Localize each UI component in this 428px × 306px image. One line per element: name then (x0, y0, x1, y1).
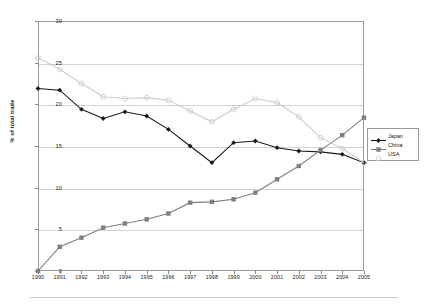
x-axis-tick-mark (212, 271, 213, 274)
series-usa (36, 55, 367, 165)
x-axis-tick-label: 1993 (97, 274, 109, 280)
x-axis-tick-mark (342, 271, 343, 274)
data-point-square (253, 190, 257, 194)
legend-key-square-icon (370, 140, 387, 149)
data-point-diamond (144, 114, 149, 119)
series-line (38, 89, 364, 163)
x-axis-tick-mark (125, 271, 126, 274)
data-point-square (123, 221, 127, 225)
x-axis-tick-mark (103, 271, 104, 274)
line-chart: % of total trade 05101520253019901991199… (0, 0, 428, 306)
series-layer (38, 21, 364, 271)
x-axis-tick-mark (299, 271, 300, 274)
legend: JapanChinaUSA (367, 128, 419, 161)
legend-label: USA (388, 151, 399, 157)
data-point-star (376, 156, 381, 161)
series-line (38, 118, 364, 271)
x-axis-tick-label: 1992 (75, 274, 87, 280)
x-axis-tick-mark (277, 271, 278, 274)
data-point-square (79, 235, 83, 239)
x-axis-tick-label: 2004 (336, 274, 348, 280)
footer-divider (30, 297, 398, 298)
x-axis-tick-label: 2000 (249, 274, 261, 280)
x-axis-tick-mark (147, 271, 148, 274)
data-point-square (275, 177, 279, 181)
data-point-diamond (340, 152, 345, 157)
legend-item-usa[interactable]: USA (370, 149, 416, 158)
x-axis-tick-label: 1996 (162, 274, 174, 280)
data-point-square (231, 197, 235, 201)
data-point-square (340, 133, 344, 137)
data-point-diamond (36, 86, 41, 91)
data-point-square (144, 217, 148, 221)
legend-item-china[interactable]: China (370, 140, 416, 149)
data-point-square (318, 148, 322, 152)
x-axis-tick-label: 2003 (314, 274, 326, 280)
x-axis-tick-mark (234, 271, 235, 274)
x-axis-tick-label: 1997 (184, 274, 196, 280)
x-axis-tick-label: 1995 (140, 274, 152, 280)
data-point-diamond (123, 109, 128, 114)
data-point-diamond (253, 139, 258, 144)
x-axis-tick-label: 2002 (293, 274, 305, 280)
legend-label: Japan (388, 133, 403, 139)
x-axis-tick-label: 1999 (227, 274, 239, 280)
data-point-square (297, 164, 301, 168)
x-axis-tick-label: 1994 (119, 274, 131, 280)
data-point-diamond (296, 149, 301, 154)
x-axis-tick-mark (60, 271, 61, 274)
x-axis-tick-mark (255, 271, 256, 274)
x-axis-tick-mark (321, 271, 322, 274)
data-point-square (36, 269, 40, 273)
x-axis-tick-mark (81, 271, 82, 274)
legend-key-star-icon (370, 149, 387, 158)
data-point-square (58, 245, 62, 249)
data-point-diamond (275, 145, 280, 150)
x-axis-tick-label: 1998 (206, 274, 218, 280)
x-axis-tick-mark (168, 271, 169, 274)
series-line (38, 58, 364, 163)
legend-key-diamond-icon (370, 131, 387, 140)
y-axis-title: % of total trade (9, 71, 15, 171)
data-point-diamond (101, 116, 106, 121)
data-point-square (188, 200, 192, 204)
x-axis-tick-label: 2001 (271, 274, 283, 280)
data-point-square (166, 211, 170, 215)
data-point-square (362, 115, 366, 119)
x-axis-tick-mark (190, 271, 191, 274)
x-axis-tick-label: 2005 (358, 274, 370, 280)
x-axis-tick-mark (364, 271, 365, 274)
x-axis-tick-label: 1991 (54, 274, 66, 280)
legend-label: China (388, 142, 403, 148)
series-china (36, 115, 366, 273)
data-point-square (210, 200, 214, 204)
x-axis-tick-label: 1990 (32, 274, 44, 280)
data-point-square (101, 225, 105, 229)
legend-item-japan[interactable]: Japan (370, 131, 416, 140)
